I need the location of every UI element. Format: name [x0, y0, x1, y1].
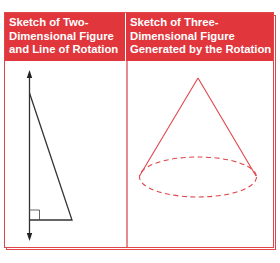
arrow-up-icon	[27, 70, 32, 78]
right-angle-marker	[30, 210, 40, 220]
figures-layer	[0, 0, 280, 263]
arrow-down-icon	[27, 233, 32, 241]
cone	[140, 78, 257, 197]
right-triangle	[30, 93, 73, 220]
cone-base-ellipse	[140, 157, 257, 197]
line-of-rotation	[27, 70, 32, 241]
